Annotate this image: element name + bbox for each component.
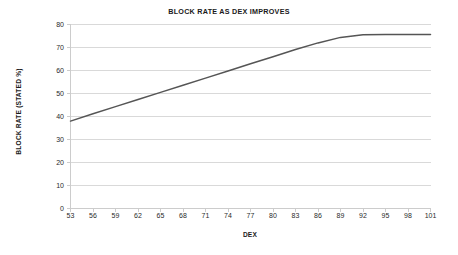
chart-container: BLOCK RATE AS DEX IMPROVES BLOCK RATE (S…: [0, 0, 458, 255]
x-axis-tick-label: 101: [418, 212, 444, 219]
x-axis-title: DEX: [70, 231, 430, 238]
x-axis-tick-labels: 53565962656871747780838689929598101: [0, 0, 458, 255]
